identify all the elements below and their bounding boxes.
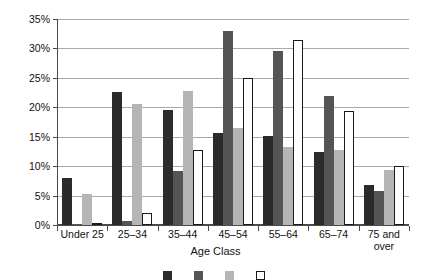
bar [112,92,122,225]
chart-legend [0,271,431,280]
y-axis-tick [53,166,57,167]
bar [213,133,223,225]
y-axis-tick-label: 30% [0,43,50,53]
bar [263,136,273,225]
y-axis-tick [53,196,57,197]
y-axis-tick-label: 5% [0,191,50,201]
legend-swatch [225,271,234,280]
bar-chart: 0%5%10%15%20%25%30%35% Under 2525–3435–4… [0,0,431,280]
bar [173,171,183,225]
legend-swatch [256,271,265,280]
legend-item [163,271,176,280]
bar [273,51,283,225]
bar-group [107,19,157,225]
plot-area [57,19,409,225]
y-axis-tick-label: 20% [0,102,50,112]
bar [62,178,72,225]
legend-item [225,271,238,280]
bar [283,147,293,225]
bar [384,170,394,225]
y-axis-tick [53,107,57,108]
legend-item [194,271,207,280]
y-axis-tick-label: 15% [0,132,50,142]
bar [394,166,404,225]
bar [233,128,243,225]
bar [314,152,324,225]
bar-group [258,19,308,225]
bar-group [308,19,358,225]
bar-group [57,19,107,225]
y-axis-tick [53,137,57,138]
bar [293,40,303,225]
bar [193,150,203,225]
bar [142,213,152,225]
legend-swatch [163,271,172,280]
bar [82,194,92,225]
y-axis-tick [53,48,57,49]
bar [243,78,253,225]
bar [364,185,374,225]
y-axis-tick-label: 25% [0,73,50,83]
bar [344,111,354,225]
x-axis-line [57,225,409,226]
bar-group [158,19,208,225]
bar-group [359,19,409,225]
y-axis-tick [53,78,57,79]
y-axis-tick-label: 10% [0,161,50,171]
bar [163,110,173,225]
y-axis-line [57,19,58,226]
legend-swatch [194,271,203,280]
bar-group [208,19,258,225]
bar [132,104,142,225]
y-axis-tick-label: 35% [0,14,50,24]
bar [183,91,193,225]
y-axis-tick [53,19,57,20]
bar [374,191,384,225]
bar [334,150,344,225]
bar [324,96,334,225]
y-axis-tick-label: 0% [0,220,50,230]
x-axis-title: Age Class [0,245,431,257]
bar [223,31,233,225]
legend-item [256,271,269,280]
